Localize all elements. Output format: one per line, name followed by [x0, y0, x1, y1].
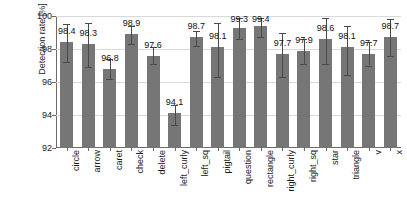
value-label-right_sq: 97.9 — [295, 35, 313, 45]
value-label-circle: 98.4 — [58, 26, 76, 36]
value-label-star: 98.6 — [317, 23, 335, 33]
x-label-caret: caret — [114, 150, 124, 170]
x-label-question: question — [243, 150, 253, 184]
value-label-x: 98.7 — [381, 21, 399, 31]
bar-rectangle — [254, 26, 267, 148]
plot-area: 98.498.396.898.997.694.198.798.199.399.4… — [56, 16, 401, 148]
y-tick-96 — [52, 82, 56, 83]
value-label-check: 98.9 — [123, 18, 141, 28]
x-label-pigtail: pigtail — [222, 150, 232, 174]
errorbar-check — [131, 26, 132, 44]
errorbar-left_sq — [196, 31, 197, 46]
x-label-v: v — [373, 150, 383, 155]
y-axis-title: Detection rate [%] — [37, 0, 47, 85]
errorbar-cap-low-check — [128, 44, 135, 45]
y-tick-label-94: 94 — [42, 110, 52, 120]
errorbar-cap-low-right_curly — [279, 77, 286, 78]
value-label-delete: 97.6 — [144, 40, 162, 50]
errorbar-cap-low-question — [236, 39, 243, 40]
errorbar-cap-low-arrow — [85, 67, 92, 68]
errorbar-cap-high-star — [322, 18, 329, 19]
x-label-left_sq: left_sq — [200, 150, 210, 177]
x-label-rectangle: rectangle — [265, 150, 275, 187]
errorbar-cap-low-left_sq — [193, 46, 200, 47]
errorbar-cap-high-circle — [63, 24, 70, 25]
bar-right_sq — [297, 51, 310, 148]
bar-left_sq — [190, 37, 203, 148]
errorbar-cap-low-delete — [150, 64, 157, 65]
x-label-right_sq: right_sq — [308, 150, 318, 182]
bar-check — [125, 34, 138, 148]
value-label-left_sq: 98.7 — [187, 21, 205, 31]
errorbar-cap-low-triangle — [344, 75, 351, 76]
y-tick-100 — [52, 16, 56, 17]
value-label-rectangle: 99.4 — [252, 14, 270, 24]
errorbar-cap-low-rectangle — [257, 37, 264, 38]
bar-v — [362, 54, 375, 148]
errorbar-cap-high-right_curly — [279, 33, 286, 34]
x-label-right_curly: right_curly — [286, 150, 296, 192]
y-tick-92 — [52, 148, 56, 149]
x-label-star: star — [330, 150, 340, 165]
errorbar-delete — [153, 47, 154, 64]
errorbar-cap-high-x — [387, 19, 394, 20]
errorbar-cap-low-right_sq — [300, 64, 307, 65]
errorbar-cap-high-arrow — [85, 23, 92, 24]
errorbar-cap-low-circle — [63, 62, 70, 63]
x-label-delete: delete — [157, 150, 167, 175]
chart-figure: 92949698100 98.498.396.898.997.694.198.7… — [0, 0, 407, 217]
x-label-circle: circle — [71, 150, 81, 171]
gridline-100 — [56, 16, 401, 17]
value-label-question: 99.3 — [231, 14, 249, 24]
value-label-right_curly: 97.7 — [274, 38, 292, 48]
value-label-triangle: 98.1 — [338, 31, 356, 41]
bar-question — [233, 28, 246, 148]
errorbar-cap-low-x — [387, 56, 394, 57]
errorbar-cap-low-star — [322, 64, 329, 65]
value-label-left_curly: 94.1 — [166, 97, 184, 107]
value-label-pigtail: 98.1 — [209, 31, 227, 41]
errorbar-left_curly — [175, 105, 176, 125]
errorbar-cap-low-left_curly — [171, 125, 178, 126]
x-label-arrow: arrow — [92, 150, 102, 173]
errorbar-cap-high-triangle — [344, 26, 351, 27]
y-tick-94 — [52, 115, 56, 116]
x-label-left_curly: left_curly — [179, 150, 189, 186]
bar-caret — [103, 69, 116, 148]
value-label-v: 97.7 — [360, 38, 378, 48]
value-label-caret: 96.8 — [101, 53, 119, 63]
x-label-triangle: triangle — [351, 150, 361, 180]
value-label-arrow: 98.3 — [80, 28, 98, 38]
errorbar-cap-low-v — [365, 66, 372, 67]
errorbar-cap-high-pigtail — [214, 23, 221, 24]
errorbar-cap-low-pigtail — [214, 77, 221, 78]
x-label-x: x — [394, 150, 404, 155]
y-tick-98 — [52, 49, 56, 50]
x-axis-category-labels: circlearrowcaretcheckdeleteleft_curlylef… — [56, 150, 401, 217]
x-label-check: check — [135, 150, 145, 174]
y-tick-label-92: 92 — [42, 143, 52, 153]
errorbar-cap-low-caret — [106, 79, 113, 80]
bar-delete — [147, 56, 160, 148]
